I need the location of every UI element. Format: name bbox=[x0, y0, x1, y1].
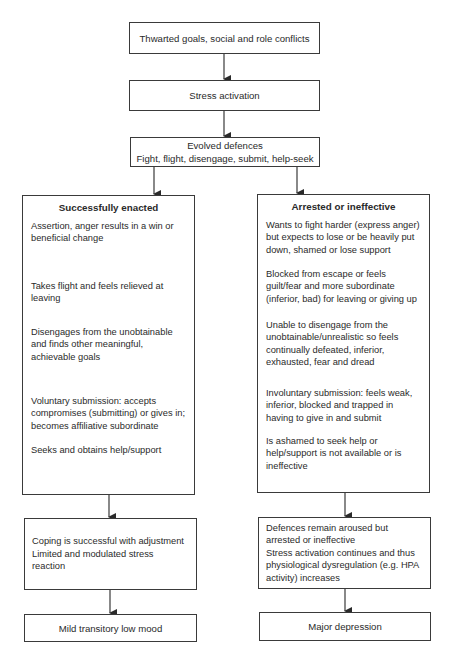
right-item-escape: Blocked from escape or feels guilt/fear … bbox=[266, 268, 423, 305]
coping-successful-box: Coping is successful with adjustment Lim… bbox=[24, 518, 197, 590]
defences-aroused-box: Defences remain aroused but arrested or … bbox=[258, 517, 431, 589]
major-depression-box: Major depression bbox=[259, 612, 431, 641]
arrested-ineffective-title: Arrested or ineffective bbox=[266, 201, 421, 213]
defences-line-1: Defences remain aroused but arrested or … bbox=[266, 522, 423, 547]
mild-low-mood-text: Mild transitory low mood bbox=[59, 622, 162, 635]
thwarted-goals-box: Thwarted goals, social and role conflict… bbox=[129, 22, 320, 54]
right-item-help: Is ashamed to seek help or help/support … bbox=[266, 435, 423, 472]
stress-activation-text: Stress activation bbox=[189, 89, 259, 102]
successfully-enacted-title: Successfully enacted bbox=[31, 202, 186, 214]
evolved-defences-title: Evolved defences bbox=[187, 139, 263, 152]
stress-activation-box: Stress activation bbox=[129, 80, 320, 111]
right-item-submission: Involuntary submission: feels weak, infe… bbox=[266, 387, 423, 424]
left-item-submission: Voluntary submission: accepts compromise… bbox=[31, 395, 188, 432]
thwarted-goals-text: Thwarted goals, social and role conflict… bbox=[139, 32, 309, 45]
left-item-assertion: Assertion, anger results in a win or ben… bbox=[31, 220, 188, 245]
right-item-disengage: Unable to disengage from the unobtainabl… bbox=[266, 319, 423, 369]
major-depression-text: Major depression bbox=[308, 620, 382, 633]
left-item-disengage: Disengages from the unobtainable and fin… bbox=[31, 326, 188, 363]
left-item-help: Seeks and obtains help/support bbox=[31, 444, 188, 456]
coping-line-1: Coping is successful with adjustment bbox=[32, 535, 189, 547]
defences-line-2: Stress activation continues and thus phy… bbox=[266, 547, 423, 584]
left-item-flight: Takes flight and feels relieved at leavi… bbox=[31, 280, 188, 305]
arrested-ineffective-box: Arrested or ineffective Wants to fight h… bbox=[257, 194, 430, 493]
coping-line-2: Limited and modulated stress reaction bbox=[32, 548, 189, 573]
evolved-defences-list: Fight, flight, disengage, submit, help-s… bbox=[136, 152, 313, 165]
right-item-fight: Wants to fight harder (express anger) bu… bbox=[266, 219, 423, 256]
mild-low-mood-box: Mild transitory low mood bbox=[24, 614, 197, 642]
successfully-enacted-box: Successfully enacted Assertion, anger re… bbox=[22, 195, 195, 495]
evolved-defences-box: Evolved defences Fight, flight, disengag… bbox=[130, 137, 320, 167]
